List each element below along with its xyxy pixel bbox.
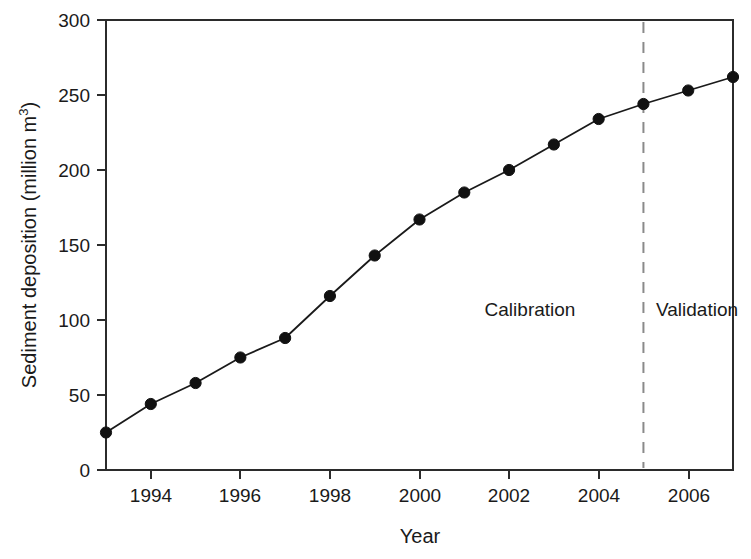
data-point: [414, 214, 425, 225]
data-point: [593, 113, 604, 124]
y-tick-label-0: 0: [79, 460, 90, 481]
y-tick-label-250: 250: [58, 85, 90, 106]
y-tick-label-100: 100: [58, 310, 90, 331]
validation-label: Validation: [656, 299, 738, 320]
data-point: [548, 139, 559, 150]
chart-figure: 300 250 200 150 100 50 0 1994 1996 1998 …: [0, 0, 751, 559]
calibration-label: Calibration: [485, 299, 576, 320]
x-tick-label-1996: 1996: [219, 485, 261, 506]
x-tick-label-2002: 2002: [488, 485, 530, 506]
data-point: [235, 352, 246, 363]
data-point: [280, 332, 291, 343]
y-tick-label-50: 50: [69, 385, 90, 406]
x-tick-label-2006: 2006: [668, 485, 710, 506]
data-point: [459, 187, 470, 198]
data-point: [190, 377, 201, 388]
x-tick-label-1998: 1998: [309, 485, 351, 506]
data-point: [369, 250, 380, 261]
data-point: [145, 398, 156, 409]
x-tick-label-2000: 2000: [399, 485, 441, 506]
y-axis-title: Sediment deposition (million m3): [16, 102, 40, 388]
data-point: [324, 290, 335, 301]
x-tick-label-2004: 2004: [578, 485, 621, 506]
y-axis-title-group: Sediment deposition (million m3): [16, 102, 40, 388]
data-point: [683, 85, 694, 96]
y-axis-title-close: ): [18, 102, 40, 109]
x-axis-title: Year: [400, 525, 441, 547]
y-tick-label-300: 300: [58, 10, 90, 31]
x-tick-label-1994: 1994: [130, 485, 173, 506]
chart-background: [0, 0, 751, 559]
y-tick-label-150: 150: [58, 235, 90, 256]
y-axis-title-main: Sediment deposition (million m: [18, 116, 40, 388]
data-point: [727, 71, 738, 82]
y-tick-label-200: 200: [58, 160, 90, 181]
data-point: [503, 164, 514, 175]
sediment-deposition-line-chart: 300 250 200 150 100 50 0 1994 1996 1998 …: [0, 0, 751, 559]
y-axis-title-superscript: 3: [16, 109, 31, 116]
data-point: [100, 427, 111, 438]
data-point: [638, 98, 649, 109]
